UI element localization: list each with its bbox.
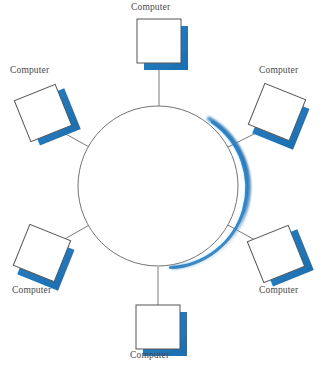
ring-outline — [78, 106, 238, 266]
node-label-computer-top: Computer — [131, 2, 170, 13]
diagram-canvas — [0, 0, 323, 368]
network-topology-diagram: Computer Computer Computer Computer Comp… — [0, 0, 323, 368]
node-computer-bottom-right[interactable] — [247, 223, 313, 289]
node-computer-top[interactable] — [137, 19, 188, 70]
node-label-computer-bottom-right: Computer — [259, 285, 298, 296]
node-box — [136, 305, 180, 349]
node-label-computer-top-right: Computer — [259, 65, 298, 76]
node-computer-bottom[interactable] — [136, 305, 187, 356]
node-label-computer-bottom: Computer — [130, 350, 169, 361]
node-computer-top-left[interactable] — [14, 82, 80, 148]
node-computer-bottom-left[interactable] — [11, 224, 77, 290]
node-box — [137, 19, 181, 63]
node-label-computer-bottom-left: Computer — [12, 285, 51, 296]
node-label-computer-top-left: Computer — [10, 65, 49, 76]
node-computer-top-right[interactable] — [246, 83, 312, 149]
connector-line-top-left — [64, 133, 91, 148]
connector-line-bottom-left — [63, 224, 91, 240]
central-ring — [78, 106, 249, 268]
